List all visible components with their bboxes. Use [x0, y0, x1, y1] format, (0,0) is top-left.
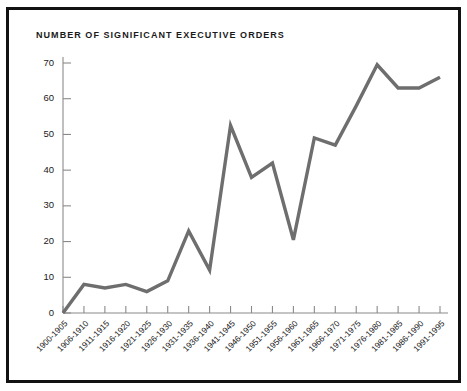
x-axis-tick-marks — [63, 306, 440, 313]
y-tick-label: 50 — [43, 128, 54, 139]
y-tick-label: 30 — [43, 199, 54, 210]
x-axis-tick-labels: 1900-19051906-19101911-19151916-19201921… — [34, 318, 447, 354]
y-tick-label: 20 — [43, 235, 54, 246]
y-tick-label: 70 — [43, 57, 54, 68]
executive-orders-series-line — [63, 65, 440, 313]
y-axis-tick-marks — [63, 63, 71, 313]
y-tick-label: 60 — [43, 92, 54, 103]
line-chart-plot: 010203040506070 1900-19051906-19101911-1… — [0, 0, 467, 391]
y-tick-label: 40 — [43, 164, 54, 175]
y-tick-label: 0 — [49, 307, 54, 318]
y-tick-label: 10 — [43, 271, 54, 282]
chart-figure: NUMBER OF SIGNIFICANT EXECUTIVE ORDERS 0… — [0, 0, 467, 391]
y-axis-tick-labels: 010203040506070 — [43, 57, 54, 318]
